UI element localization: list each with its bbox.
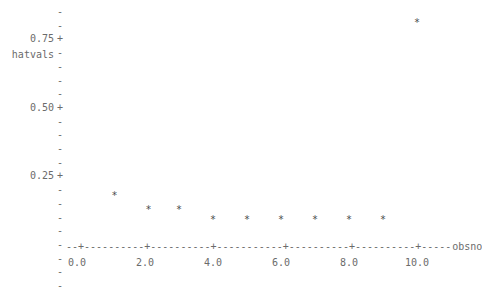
y-axis-minor-tick: -: [57, 281, 63, 291]
y-axis-major-tick: +: [57, 34, 63, 44]
y-axis-title: hatvals: [0, 50, 54, 60]
data-point-marker: *: [379, 215, 388, 225]
y-axis-minor-tick: -: [57, 89, 63, 99]
y-axis-minor-tick: -: [57, 267, 63, 277]
y-axis-major-tick: +: [57, 171, 63, 181]
y-axis-minor-tick: -: [57, 117, 63, 127]
y-axis-minor-tick: -: [57, 130, 63, 140]
data-point-marker: *: [175, 205, 184, 215]
data-point-marker: *: [110, 191, 119, 201]
x-axis-tick-label: 2.0: [115, 258, 175, 268]
y-axis-minor-tick: -: [57, 226, 63, 236]
x-axis-title: obsno: [452, 242, 482, 252]
x-axis-tick-label: 8.0: [319, 258, 379, 268]
y-axis-minor-tick: -: [57, 199, 63, 209]
y-axis-major-tick: +: [57, 103, 63, 113]
y-axis-minor-tick: -: [57, 144, 63, 154]
x-axis-tick-label: 10.0: [387, 258, 447, 268]
y-axis-minor-tick: -: [57, 48, 63, 58]
data-point-marker: *: [413, 18, 422, 28]
data-point-marker: *: [243, 215, 252, 225]
y-axis-minor-tick: -: [57, 213, 63, 223]
y-axis-minor-tick: -: [57, 21, 63, 31]
y-axis-minor-tick: -: [57, 76, 63, 86]
x-axis-tick-label: 4.0: [183, 258, 243, 268]
y-axis-tick-label: 0.50: [0, 103, 54, 113]
y-axis-minor-tick: -: [57, 185, 63, 195]
y-axis-tick-label: 0.25: [0, 171, 54, 181]
y-axis-minor-tick: -: [57, 158, 63, 168]
data-point-marker: *: [277, 215, 286, 225]
data-point-marker: *: [345, 215, 354, 225]
y-axis-minor-tick: -: [57, 240, 63, 250]
x-axis-tick-label: 0.0: [47, 258, 107, 268]
y-axis-tick-label: 0.75: [0, 34, 54, 44]
data-point-marker: *: [209, 215, 218, 225]
data-point-marker: *: [144, 205, 153, 215]
y-axis-minor-tick: -: [57, 62, 63, 72]
y-axis-minor-tick: -: [57, 7, 63, 17]
x-axis-line: --+----------+----------+-----------+---…: [66, 242, 451, 252]
x-axis-tick-label: 6.0: [251, 258, 311, 268]
data-point-marker: *: [311, 215, 320, 225]
